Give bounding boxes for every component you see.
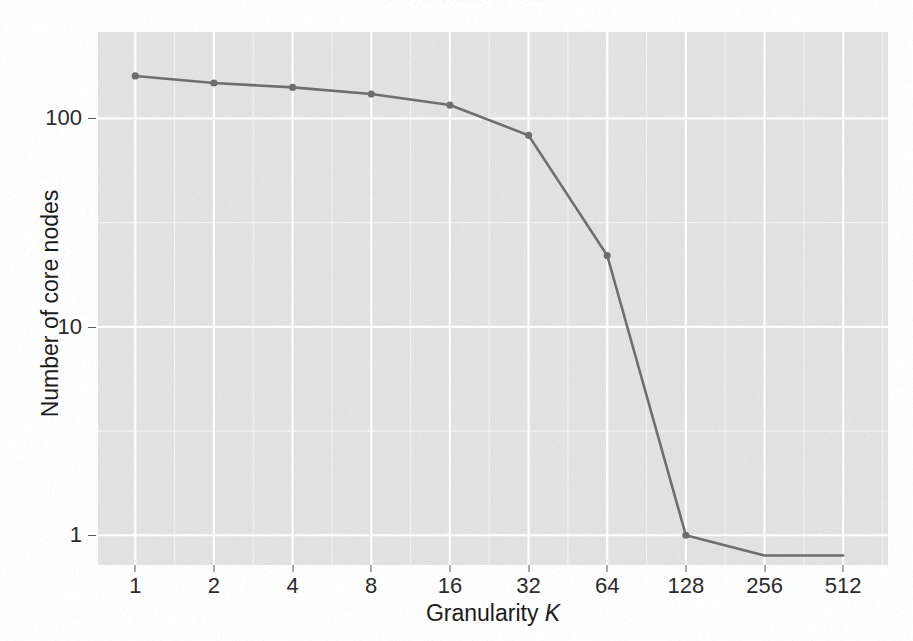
plot-panel: [98, 32, 888, 565]
y-axis-tick-label: 1: [70, 522, 82, 548]
x-axis-tick-label: 64: [595, 573, 619, 599]
x-axis-title: Granularity K: [98, 600, 888, 627]
plot-svg: [98, 32, 888, 565]
x-axis-tick-mark: [764, 565, 765, 572]
y-axis-tick-mark: [88, 327, 96, 328]
x-axis-tick-label: 2: [208, 573, 220, 599]
data-point-marker: [682, 532, 689, 539]
cropped-caption-text: · · · · · · · · · · · · · · · · · · · ·: [0, 0, 913, 5]
y-axis-tick-mark: [88, 535, 96, 536]
data-point-marker: [132, 72, 139, 79]
x-axis-tick-mark: [371, 565, 372, 572]
x-axis-tick-mark: [213, 565, 214, 572]
data-point-marker: [525, 132, 532, 139]
x-axis-tick-mark: [292, 565, 293, 572]
x-axis-tick-mark: [607, 565, 608, 572]
y-axis-tick-mark: [88, 118, 96, 119]
gridlines-major-y: [98, 118, 888, 535]
x-axis-tick-label: 8: [365, 573, 377, 599]
x-axis-tick-mark: [449, 565, 450, 572]
y-axis-title: Number of core nodes: [37, 4, 64, 604]
x-axis-tick-label: 16: [438, 573, 462, 599]
x-axis-title-symbol: K: [545, 600, 560, 626]
x-axis-tick-mark: [528, 565, 529, 572]
x-axis-tick-label: 512: [825, 573, 862, 599]
x-axis-tick-mark: [685, 565, 686, 572]
x-axis-tick-label: 32: [516, 573, 540, 599]
x-axis-tick-label: 1: [129, 573, 141, 599]
x-axis-tick-label: 128: [668, 573, 705, 599]
x-axis-tick-mark: [135, 565, 136, 572]
data-point-marker: [604, 252, 611, 259]
data-point-marker: [368, 90, 375, 97]
x-axis-title-main: Granularity: [426, 600, 545, 626]
figure-container: · · · · · · · · · · · · · · · · · · · · …: [0, 0, 913, 641]
data-point-marker: [289, 84, 296, 91]
x-axis-tick-label: 256: [746, 573, 783, 599]
x-axis-tick-mark: [843, 565, 844, 572]
data-point-marker: [210, 79, 217, 86]
data-point-marker: [446, 101, 453, 108]
x-axis-tick-label: 4: [286, 573, 298, 599]
